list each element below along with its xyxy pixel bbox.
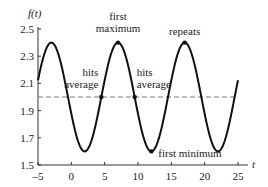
annotation-text: maximum	[96, 22, 141, 34]
x-tick-label: –5	[32, 170, 45, 182]
x-tick-label: 15	[166, 170, 178, 182]
point-marker	[149, 149, 153, 153]
y-tick-label: 1.7	[20, 132, 34, 144]
x-axis-title: t	[252, 158, 256, 170]
annotation-text: repeats	[169, 25, 200, 37]
x-tick-label: 5	[102, 170, 108, 182]
annotation-text: first minimum	[158, 147, 222, 159]
axes	[38, 27, 248, 165]
point-marker	[182, 40, 186, 44]
x-tick-label: 25	[233, 170, 245, 182]
annotation-text: first	[109, 10, 127, 22]
y-tick-label: 2.3	[20, 50, 34, 62]
annotation-text: hits	[82, 66, 98, 78]
y-axis-title: f(t)	[28, 7, 42, 20]
x-tick-label: 0	[69, 170, 75, 182]
y-tick-label: 1.9	[20, 105, 34, 117]
point-marker	[132, 95, 136, 99]
annotation-text: average	[64, 78, 98, 90]
annotation-text: hits	[137, 66, 153, 78]
point-marker	[116, 40, 120, 44]
x-tick-label: 20	[199, 170, 211, 182]
y-tick-label: 2.5	[20, 23, 34, 35]
y-tick-label: 2.1	[20, 77, 34, 89]
annotation-text: average	[137, 78, 171, 90]
point-marker	[99, 95, 103, 99]
x-tick-label: 10	[133, 170, 145, 182]
sinusoid-chart: 1.51.71.92.12.32.5 –50510152025 firstmax…	[0, 0, 268, 187]
